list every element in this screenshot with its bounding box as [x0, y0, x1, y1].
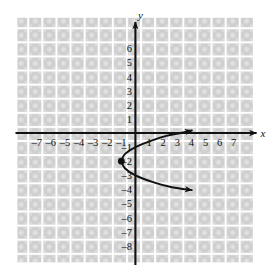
- coordinate-plane: x y –7–6–5–4–3–2–11234567 654321–1–2–3–4…: [0, 0, 275, 278]
- x-tick--3: –3: [87, 137, 99, 148]
- y-tick--8: –8: [121, 241, 133, 252]
- y-tick-5: 5: [127, 57, 132, 68]
- x-tick-2: 2: [161, 137, 166, 148]
- x-tick--5: –5: [59, 137, 71, 148]
- y-tick-6: 6: [127, 43, 132, 54]
- y-tick--4: –4: [121, 184, 133, 195]
- y-tick-2: 2: [127, 100, 132, 111]
- vertex-point-group: [118, 158, 125, 165]
- x-tick--7: –7: [30, 137, 42, 148]
- x-axis-label: x: [260, 127, 266, 139]
- x-tick-7: 7: [231, 137, 236, 148]
- x-tick-6: 6: [217, 137, 222, 148]
- y-tick--7: –7: [121, 227, 133, 238]
- y-tick--6: –6: [121, 213, 133, 224]
- y-tick--5: –5: [121, 198, 133, 209]
- x-tick-3: 3: [175, 137, 180, 148]
- y-tick-4: 4: [127, 72, 133, 83]
- x-tick--6: –6: [45, 137, 57, 148]
- vertex-dot: [118, 158, 125, 165]
- x-tick--2: –2: [101, 137, 113, 148]
- y-tick--1: –1: [121, 142, 133, 153]
- x-tick-4: 4: [189, 137, 195, 148]
- y-tick-1: 1: [127, 114, 132, 125]
- x-tick-5: 5: [203, 137, 208, 148]
- y-tick-3: 3: [127, 86, 132, 97]
- y-axis-label: y: [137, 9, 143, 21]
- x-tick--4: –4: [73, 137, 85, 148]
- graph-screenshot: x y –7–6–5–4–3–2–11234567 654321–1–2–3–4…: [0, 0, 275, 278]
